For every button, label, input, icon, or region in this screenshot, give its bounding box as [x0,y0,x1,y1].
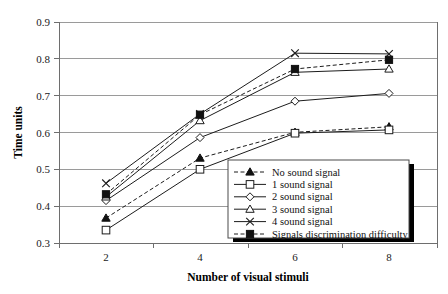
y-tick-label: 0.3 [36,237,50,249]
y-tick-label: 0.5 [36,163,50,175]
x-tick-label: 2 [103,251,109,263]
x-axis-title: Number of visual stimuli [187,271,309,283]
x-tick-labels: 2 4 6 8 [103,251,392,263]
legend-label: 4 sound signal [272,216,333,227]
y-tick-labels: 0.9 0.8 0.7 0.6 0.5 0.4 0.3 [36,16,50,249]
y-tick-label: 0.7 [36,90,50,102]
line-chart: 0.9 0.8 0.7 0.6 0.5 0.4 0.3 2 4 6 8 Numb… [0,0,448,294]
legend-label: 3 sound signal [272,204,333,215]
x-tick-label: 6 [292,251,298,263]
legend-label: No sound signal [272,167,340,178]
legend-label: Signals discrimination difficulty [272,229,408,240]
y-tick-label: 0.4 [36,200,50,212]
legend-label: 2 sound signal [272,191,333,202]
y-axis-ticks [54,22,59,243]
y-axis-title: Time units [12,106,24,159]
legend-label: 1 sound signal [272,179,333,190]
chart-canvas: 0.9 0.8 0.7 0.6 0.5 0.4 0.3 2 4 6 8 Numb… [0,0,448,294]
x-tick-label: 4 [197,251,203,263]
legend-item-1-sound-signal[interactable]: 1 sound signal [234,179,333,190]
y-tick-label: 0.6 [36,127,50,139]
filled-square-icon [246,230,253,237]
y-tick-label: 0.8 [36,53,50,65]
y-tick-label: 0.9 [36,16,50,28]
open-square-icon [246,181,254,189]
x-axis-ticks [59,243,437,248]
legend: No sound signal 1 sound signal 2 sound s… [228,160,414,242]
x-tick-label: 8 [386,251,392,263]
